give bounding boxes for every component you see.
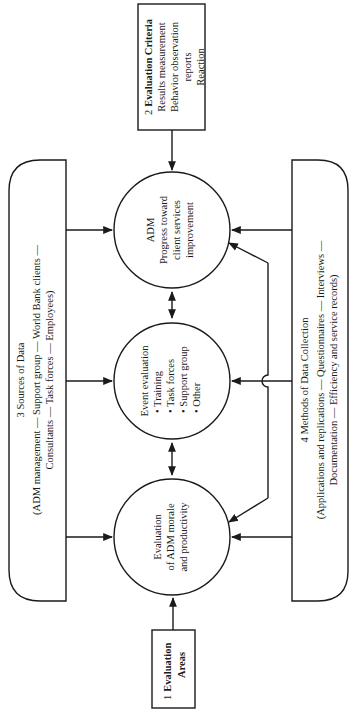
methods-title: 4 Methods of Data Collection: [299, 317, 310, 443]
progress-line: improvement: [184, 202, 195, 258]
sources-title: 3 Sources of Data: [15, 342, 26, 417]
morale-circle: Evaluation of ADM morale and productivit…: [114, 479, 230, 595]
event-title: Event evaluation: [139, 345, 150, 417]
methods-line: (Applications and replications — Questio…: [315, 240, 327, 519]
sources-line: Consultants — Task forces — Employees): [44, 290, 56, 470]
svg-text:1Evaluation: 1Evaluation: [162, 643, 173, 700]
feedback-to-progress-arrow: [229, 243, 268, 263]
progress-line: ADM: [145, 217, 156, 242]
criteria-title: Evaluation Criteria: [143, 18, 154, 107]
criteria-line: Results measurement: [156, 22, 167, 112]
areas-title: Evaluation: [162, 643, 173, 692]
progress-circle: ADM Progress toward client services impr…: [114, 172, 230, 288]
morale-line: and productivity: [178, 502, 189, 572]
morale-line: of ADM morale: [165, 503, 176, 570]
evaluation-framework-diagram: 2Evaluation Criteria Results measurement…: [0, 0, 350, 713]
event-item: • Support group: [178, 346, 189, 413]
morale-line: Evaluation: [152, 514, 163, 560]
methods-of-data-collection-box: 4 Methods of Data Collection (Applicatio…: [292, 160, 348, 601]
areas-title-2: Areas: [176, 652, 187, 678]
criteria-line: Reaction: [195, 48, 206, 86]
methods-line: Documentation — Efficiency and service r…: [328, 274, 340, 486]
sources-of-data-box: 3 Sources of Data (ADM management — Supp…: [9, 160, 66, 601]
evaluation-areas-box: 1Evaluation Areas: [152, 630, 195, 708]
progress-line: Progress toward: [158, 195, 169, 264]
criteria-number: 2: [143, 110, 154, 115]
event-item: • Training: [152, 370, 163, 413]
criteria-line: reports: [182, 52, 193, 81]
svg-text:2Evaluation Criteria: 2Evaluation Criteria: [143, 18, 154, 115]
evaluation-criteria-box: 2Evaluation Criteria Results measurement…: [138, 4, 206, 130]
criteria-line: Behavior observation: [169, 21, 180, 112]
feedback-to-morale-arrow: [229, 498, 268, 522]
areas-number: 1: [162, 695, 173, 700]
event-evaluation-circle: Event evaluation • Training • Task force…: [114, 323, 230, 439]
sources-line: (ADM management — Support group — World …: [31, 245, 43, 515]
event-item: • Task forces: [165, 359, 176, 413]
progress-line: client services: [171, 200, 182, 260]
event-item: • Other: [191, 382, 202, 413]
